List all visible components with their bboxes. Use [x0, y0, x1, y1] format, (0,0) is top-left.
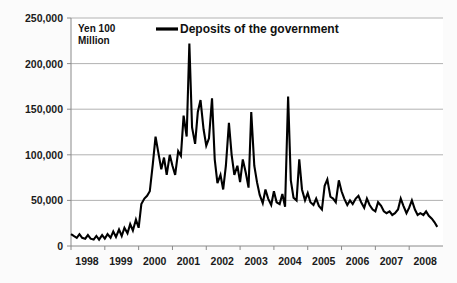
- x-axis-tick-label-7: 2005: [312, 255, 336, 267]
- x-axis-tick-label-3: 2001: [177, 255, 201, 267]
- x-axis-tick-label-2: 2000: [143, 255, 167, 267]
- x-axis-tick-label-5: 2003: [244, 255, 268, 267]
- y-axis-tick-label-2: 100,000: [25, 149, 63, 161]
- x-axis-tick-label-4: 2002: [211, 255, 235, 267]
- legend: Deposits of the government: [156, 22, 339, 36]
- x-axis-tick-label-6: 2004: [278, 255, 302, 267]
- x-axis-tick-label-9: 2007: [380, 255, 404, 267]
- chart-container: 050,000100,000150,000200,000250,000 1998…: [0, 0, 457, 283]
- y-axis-tick-label-0: 0: [57, 240, 63, 252]
- unit-label-line1: Yen 100: [78, 23, 116, 34]
- y-axis-tick-label-1: 50,000: [31, 194, 63, 206]
- line-chart: 050,000100,000150,000200,000250,000 1998…: [0, 0, 457, 283]
- x-axis-tick-label-1: 1999: [109, 255, 133, 267]
- x-axis-tick-label-10: 2008: [414, 255, 438, 267]
- x-axis-labels: 1998199920002001200220032004200520062007…: [75, 255, 437, 267]
- x-axis-tick-label-0: 1998: [75, 255, 99, 267]
- unit-label-line2: Million: [78, 35, 110, 46]
- y-axis-tick-label-3: 150,000: [25, 103, 63, 115]
- y-axis-tick-label-4: 200,000: [25, 58, 63, 70]
- y-axis-tick-label-5: 250,000: [25, 12, 63, 24]
- legend-label-deposits: Deposits of the government: [180, 22, 339, 36]
- x-axis-tick-label-8: 2006: [346, 255, 370, 267]
